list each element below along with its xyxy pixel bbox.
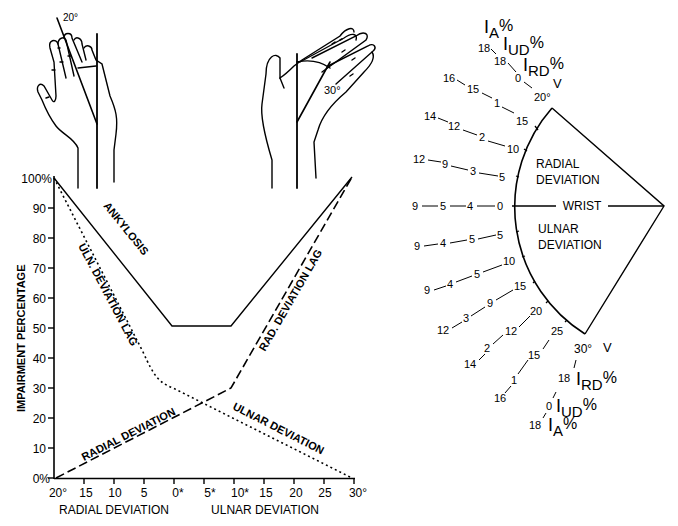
ulnar-deviation-label-2: DEVIATION	[538, 238, 602, 252]
svg-text:15: 15	[467, 83, 479, 95]
ulnar-row-10: 9 4 5 10	[424, 255, 515, 296]
y-tick-label: 0%	[33, 472, 51, 486]
y-ticks	[48, 208, 54, 478]
svg-text:14: 14	[424, 110, 436, 122]
x-tick-label: 15	[259, 486, 273, 500]
svg-text:30°: 30°	[574, 342, 592, 356]
svg-text:14: 14	[464, 358, 476, 370]
svg-text:9: 9	[414, 240, 420, 252]
x-tick-label: 10	[108, 486, 122, 500]
figure-canvas: 20° 30°	[0, 0, 678, 526]
y-tick-label: 70	[33, 262, 47, 276]
ulnar-deviation-label-1: ULNAR	[538, 222, 579, 236]
svg-text:15: 15	[514, 280, 526, 292]
svg-text:4: 4	[447, 278, 453, 290]
y-axis-label: IMPAIRMENT PERCENTAGE	[15, 265, 27, 413]
label-radial-deviation: RADIAL DEVIATION	[79, 405, 177, 463]
label-uln-deviation-lag: ULN. DEVIATION LAG	[76, 241, 140, 347]
svg-text:0: 0	[515, 72, 521, 84]
y-tick-label: 50	[33, 322, 47, 336]
svg-text:3: 3	[470, 165, 476, 177]
x-tick-label: 30°	[349, 486, 367, 500]
svg-text:25: 25	[551, 325, 563, 337]
y-tick-label: 40	[33, 352, 47, 366]
svg-text:5: 5	[469, 233, 475, 245]
svg-text:9: 9	[412, 200, 418, 212]
svg-text:12: 12	[437, 324, 449, 336]
svg-text:16: 16	[443, 72, 455, 84]
svg-text:18: 18	[478, 42, 490, 54]
svg-text:12: 12	[448, 120, 460, 132]
hand-ulnar-illustration	[262, 29, 375, 188]
svg-text:12: 12	[505, 325, 517, 337]
y-tick-label: 30	[33, 382, 47, 396]
svg-text:15: 15	[528, 349, 540, 361]
svg-text:12: 12	[413, 153, 425, 165]
y-tick-label: 20	[33, 412, 47, 426]
svg-text:2: 2	[479, 131, 485, 143]
svg-text:1: 1	[511, 374, 517, 386]
top-v-label: V	[553, 76, 562, 91]
wrist-sector-edges	[552, 108, 664, 334]
x-tick-label: 25	[318, 486, 332, 500]
svg-text:16: 16	[494, 392, 506, 404]
series-ankylosis	[54, 177, 352, 326]
svg-text:2: 2	[484, 342, 490, 354]
svg-text:1: 1	[494, 97, 500, 109]
y-tick-label: 80	[33, 232, 47, 246]
svg-text:5: 5	[499, 171, 505, 183]
x-tick-label: 0*	[172, 486, 184, 500]
radial-row-5: 12 9 3 5	[413, 153, 505, 183]
y-tick-label: 10	[33, 442, 47, 456]
hand-radial-illustration	[37, 18, 116, 188]
svg-text:10: 10	[507, 143, 519, 155]
bottom-v-label: V	[603, 340, 612, 355]
chart-area: 0% 10 20 30 40 50 60 70 80 90 100% IMPAI…	[15, 172, 367, 517]
y-tick-label: 90	[33, 202, 47, 216]
radial-deviation-label-1: RADIAL	[536, 157, 580, 171]
svg-text:18: 18	[529, 419, 541, 431]
svg-text:9: 9	[424, 284, 430, 296]
radial-row-0: 9 5 4 0	[412, 200, 503, 212]
x-tick-label: 10*	[231, 486, 249, 500]
wrist-label: WRIST	[563, 199, 602, 213]
wrist-diagram: WRIST RADIAL DEVIATION ULNAR DEVIATION I…	[412, 17, 664, 439]
svg-text:5: 5	[440, 200, 446, 212]
svg-text:20°: 20°	[534, 91, 551, 103]
svg-text:18: 18	[494, 55, 506, 67]
header-ird-bottom: IRD%	[576, 369, 617, 393]
x-tick-label: 5*	[204, 486, 216, 500]
radial-deviation-label-2: DEVIATION	[536, 173, 600, 187]
y-tick-label: 60	[33, 292, 47, 306]
y-tick-label: 100%	[21, 172, 52, 186]
svg-text:5: 5	[474, 268, 480, 280]
series-radial-deviation	[56, 177, 352, 478]
x-tick-label: 15	[79, 486, 93, 500]
left-hand-angle: 20°	[63, 12, 78, 23]
svg-text:18: 18	[558, 372, 570, 384]
svg-text:20: 20	[530, 305, 542, 317]
right-hand-angle: 30°	[324, 84, 341, 96]
label-rad-deviation-lag: RAD. DEVIATION LAG	[256, 247, 324, 353]
svg-text:9: 9	[442, 158, 448, 170]
svg-text:5: 5	[497, 229, 503, 241]
x-tick-label: 20	[289, 486, 303, 500]
svg-text:4: 4	[440, 237, 446, 249]
x-axis-label-ulnar: ULNAR DEVIATION	[211, 503, 319, 517]
svg-text:0: 0	[546, 400, 552, 412]
header-ia-top: IA%	[484, 17, 513, 41]
x-tick-labels: 20° 15 10 5 0* 5* 10* 15 20 25 30°	[49, 486, 367, 500]
label-ulnar-deviation: ULNAR DEVIATION	[231, 400, 326, 456]
header-ia-bottom: IA%	[548, 415, 577, 439]
series-uln-deviation-lag	[54, 178, 352, 478]
x-axis-label-radial: RADIAL DEVIATION	[59, 503, 169, 517]
svg-text:10: 10	[503, 255, 515, 267]
svg-text:9: 9	[487, 297, 493, 309]
svg-text:15: 15	[516, 115, 528, 127]
wrist-arc	[515, 108, 585, 334]
ulnar-rows: 9 4 5 5 9 4 5 10 12 3	[414, 229, 592, 431]
x-tick-label: 20°	[49, 486, 67, 500]
x-tick-label: 5	[141, 486, 148, 500]
ulnar-row-5: 9 4 5 5	[414, 229, 503, 252]
label-ankylosis: ANKYLOSIS	[101, 200, 151, 257]
